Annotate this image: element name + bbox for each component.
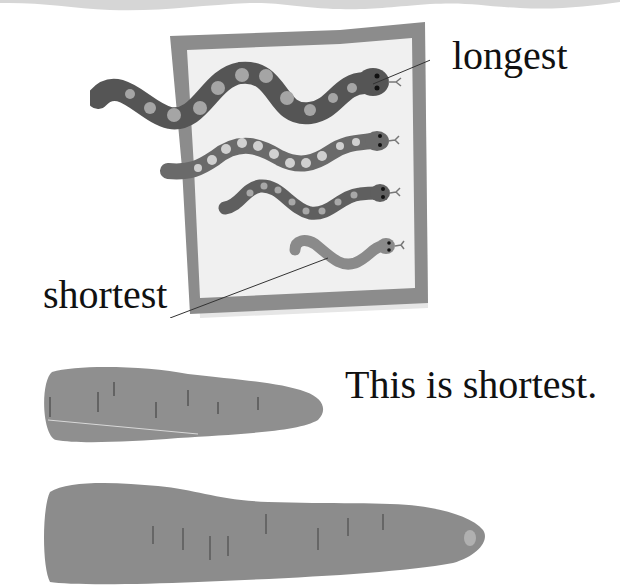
label-longest: longest [452,36,568,76]
caption-this-is-shortest: This is shortest. [345,365,597,405]
label-shortest: shortest [43,275,167,315]
short-carrot-photo [38,362,328,446]
long-carrot-photo [38,478,493,585]
top-wave-decoration [0,0,620,14]
